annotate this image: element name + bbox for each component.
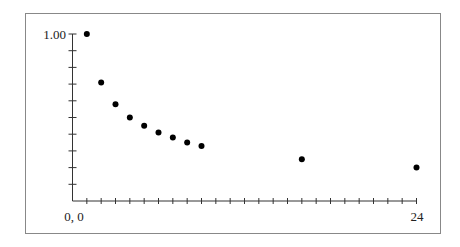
data-point (98, 79, 104, 85)
data-point (184, 140, 190, 146)
x-max-label: 24 (411, 209, 425, 224)
data-point (127, 115, 133, 121)
scatter-chart: 1.00 0, 0 24 (0, 0, 460, 247)
data-point (141, 123, 147, 129)
y-max-label: 1.00 (43, 27, 66, 42)
data-point (170, 135, 176, 141)
data-point (84, 31, 90, 37)
data-point (414, 165, 420, 171)
origin-label: 0, 0 (64, 209, 84, 224)
data-point (299, 156, 305, 162)
axes (69, 34, 417, 204)
data-point (199, 143, 205, 149)
data-point (156, 130, 162, 136)
data-points (84, 31, 420, 171)
data-point (113, 101, 119, 107)
